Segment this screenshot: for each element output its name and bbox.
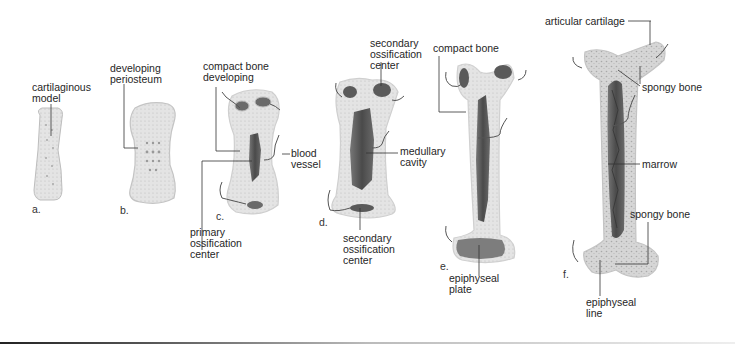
label-secondary-ossification-center-top: secondary ossification center bbox=[370, 38, 422, 71]
label-secondary-ossification-center-bottom: secondary ossification center bbox=[343, 233, 395, 266]
label-medullary-cavity: medullary cavity bbox=[400, 146, 446, 168]
label-blood-vessel: blood vessel bbox=[291, 148, 321, 170]
stage-letter-d: d. bbox=[319, 216, 328, 228]
bone-stage-a bbox=[34, 108, 63, 200]
label-developing-periosteum: developing periosteum bbox=[110, 63, 162, 85]
diagram-illustration bbox=[0, 0, 735, 344]
label-marrow: marrow bbox=[642, 159, 677, 170]
label-spongy-bone-bottom: spongy bone bbox=[630, 209, 690, 220]
label-spongy-bone-top: spongy bone bbox=[642, 82, 702, 93]
bone-development-diagram: cartilaginous model a. developing perios… bbox=[0, 0, 735, 344]
stage-letter-b: b. bbox=[120, 204, 129, 216]
bone-stage-c bbox=[220, 90, 280, 214]
label-compact-bone: compact bone bbox=[433, 43, 499, 54]
label-primary-ossification-center: primary ossification center bbox=[190, 227, 242, 260]
label-compact-bone-developing: compact bone developing bbox=[203, 61, 269, 83]
label-cartilaginous-model: cartilaginous model bbox=[32, 82, 91, 104]
stage-letter-f: f. bbox=[563, 268, 569, 280]
bone-stage-e bbox=[446, 64, 526, 263]
label-articular-cartilage: articular cartilage bbox=[545, 16, 625, 27]
stage-letter-e: e. bbox=[440, 260, 449, 272]
label-epiphyseal-line: epiphyseal line bbox=[586, 297, 636, 319]
bone-stage-d bbox=[328, 78, 404, 218]
stage-letter-c: c. bbox=[216, 210, 224, 222]
bone-stage-b bbox=[130, 103, 176, 204]
label-epiphyseal-plate: epiphyseal plate bbox=[449, 273, 499, 295]
stage-letter-a: a. bbox=[32, 203, 41, 215]
